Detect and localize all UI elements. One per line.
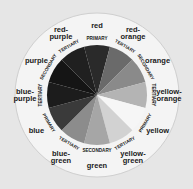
class-label-blue-purple: TERTIARY (38, 84, 43, 107)
color-name-yellow-orange: yellow-orange (156, 87, 182, 103)
color-name-orange: orange (145, 56, 170, 65)
color-name-red: red (91, 21, 103, 30)
color-name-blue-purple: blue-purple (14, 87, 37, 103)
class-label-green: SECONDARY (82, 148, 111, 153)
color-name-green: green (87, 161, 108, 170)
class-label-red: PRIMARY (86, 36, 107, 41)
color-name-blue-green: blue-green (51, 149, 72, 165)
color-name-yellow: yellow (146, 126, 169, 135)
color-name-yellow-green: yellow-green (120, 149, 146, 165)
color-name-purple: purple (25, 56, 48, 65)
class-label-yellow-orange: TERTIARY (151, 84, 156, 107)
color-wheel: PRIMARYTERTIARYSECONDARYTERTIARYPRIMARYT… (0, 0, 193, 189)
wheel-wedges (47, 45, 147, 145)
color-name-blue: blue (29, 126, 44, 135)
